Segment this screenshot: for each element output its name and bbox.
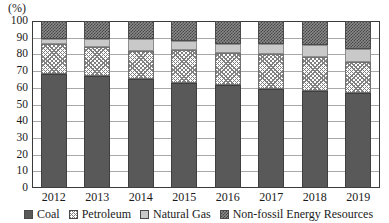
y-axis-tick-label: 90	[0, 32, 28, 44]
bar-segment-non-fossil-energy-resources-2016	[215, 21, 241, 44]
y-axis-tick-label: 70	[0, 65, 28, 77]
y-axis-unit-label: (%)	[8, 2, 26, 14]
legend-item-petroleum[interactable]: Petroleum	[69, 208, 131, 221]
bar-segment-petroleum-2013	[84, 47, 110, 76]
bar-2014	[128, 21, 154, 188]
bar-segment-petroleum-2015	[171, 50, 197, 83]
bar-segment-natural-gas-2017	[258, 44, 284, 53]
y-axis-tick-label: 40	[0, 115, 28, 127]
legend-item-non-fossil-energy-resources[interactable]: Non-fossil Energy Resources	[220, 208, 373, 221]
bar-segment-non-fossil-energy-resources-2012	[41, 21, 67, 39]
bar-segment-petroleum-2014	[128, 51, 154, 79]
solid-dark-swatch	[24, 210, 33, 219]
bar-segment-coal-2018	[302, 91, 328, 188]
bar-segment-non-fossil-energy-resources-2018	[302, 21, 328, 45]
bar-2016	[215, 21, 241, 188]
bar-2013	[84, 21, 110, 188]
bar-segment-coal-2013	[84, 76, 110, 188]
bar-segment-coal-2017	[258, 89, 284, 188]
bar-segment-coal-2019	[345, 93, 371, 188]
bar-segment-coal-2016	[215, 85, 241, 188]
y-axis-tick-label: 30	[0, 132, 28, 144]
bar-segment-natural-gas-2013	[84, 39, 110, 47]
legend-item-coal[interactable]: Coal	[24, 208, 60, 221]
y-axis-tick-label: 50	[0, 99, 28, 111]
x-axis-tick-label: 2017	[248, 191, 294, 204]
bar-segment-petroleum-2016	[215, 53, 241, 86]
y-axis-tick-label: 10	[0, 165, 28, 177]
bar-segment-coal-2014	[128, 79, 154, 188]
legend-label: Petroleum	[82, 208, 131, 221]
bar-segment-natural-gas-2015	[171, 41, 197, 50]
y-axis-tick-label: 60	[0, 82, 28, 94]
bar-segment-non-fossil-energy-resources-2013	[84, 21, 110, 39]
bar-segment-natural-gas-2016	[215, 44, 241, 53]
bar-segment-petroleum-2012	[41, 44, 67, 74]
x-axis-tick-label: 2012	[31, 191, 77, 204]
y-axis-tick-label: 20	[0, 149, 28, 161]
bar-segment-non-fossil-energy-resources-2019	[345, 21, 371, 49]
x-axis-tick-label: 2016	[205, 191, 251, 204]
bar-segment-natural-gas-2019	[345, 49, 371, 62]
legend-label: Non-fossil Energy Resources	[233, 208, 373, 221]
bar-2018	[302, 21, 328, 188]
stacked-bar-chart: (%) 1009080706050403020100 2012201320142…	[0, 0, 389, 223]
legend-label: Coal	[37, 208, 60, 221]
x-axis-tick-label: 2013	[74, 191, 120, 204]
checkerboard-swatch	[220, 210, 229, 219]
light-gray-swatch	[140, 210, 149, 219]
y-axis-tick-label: 0	[0, 182, 28, 194]
y-axis-tick-label: 100	[0, 15, 28, 27]
y-axis-tick-label: 80	[0, 48, 28, 60]
bar-2015	[171, 21, 197, 188]
bar-segment-petroleum-2017	[258, 54, 284, 89]
x-axis-tick-label: 2014	[118, 191, 164, 204]
bar-2019	[345, 21, 371, 188]
chart-legend: CoalPetroleumNatural GasNon-fossil Energ…	[24, 207, 380, 222]
bar-2017	[258, 21, 284, 188]
x-axis-tick-label: 2019	[335, 191, 381, 204]
bar-segment-natural-gas-2012	[41, 39, 67, 44]
x-axis-tick-label: 2018	[292, 191, 338, 204]
legend-label: Natural Gas	[153, 208, 211, 221]
bar-segment-natural-gas-2018	[302, 45, 328, 57]
bar-segment-coal-2012	[41, 74, 67, 188]
bar-segment-petroleum-2019	[345, 62, 371, 93]
legend-item-natural-gas[interactable]: Natural Gas	[140, 208, 211, 221]
bar-2012	[41, 21, 67, 188]
bar-segment-non-fossil-energy-resources-2014	[128, 21, 154, 39]
bar-segment-non-fossil-energy-resources-2015	[171, 21, 197, 41]
bar-segment-petroleum-2018	[302, 57, 328, 91]
bar-segment-coal-2015	[171, 83, 197, 188]
bar-segment-natural-gas-2014	[128, 39, 154, 51]
bars-layer	[32, 21, 380, 188]
bar-segment-non-fossil-energy-resources-2017	[258, 21, 284, 44]
x-axis-tick-label: 2015	[161, 191, 207, 204]
diagonal-hatch-swatch	[69, 210, 78, 219]
